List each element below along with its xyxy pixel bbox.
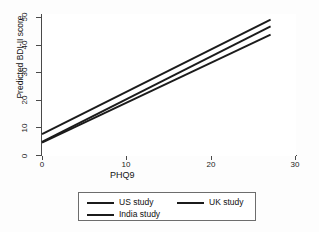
x-tick-label-20: 20 bbox=[201, 160, 221, 169]
x-tick-label-10: 10 bbox=[116, 160, 136, 169]
legend-line-swatch-icon bbox=[87, 202, 114, 204]
chart-legend: US study UK study India study bbox=[78, 192, 256, 221]
series-line-us-study bbox=[42, 20, 271, 134]
legend-line-swatch-icon bbox=[177, 202, 204, 204]
legend-label-uk-study: UK study bbox=[209, 198, 244, 207]
legend-line-swatch-icon bbox=[87, 214, 114, 216]
legend-label-india-study: India study bbox=[119, 210, 160, 219]
y-tick-label-0: 0 bbox=[21, 149, 29, 163]
plot-area bbox=[42, 14, 296, 156]
legend-item-india-study: India study bbox=[87, 209, 160, 220]
y-tick-label-30: 30 bbox=[21, 65, 29, 79]
x-tick-label-30: 30 bbox=[285, 160, 305, 169]
series-line-uk-study bbox=[42, 26, 271, 141]
legend-item-uk-study: UK study bbox=[177, 197, 244, 208]
y-tick-label-50: 50 bbox=[21, 10, 29, 24]
x-axis-title: PHQ9 bbox=[110, 170, 230, 180]
x-tick-label-0: 0 bbox=[32, 160, 52, 169]
series-lines bbox=[42, 14, 296, 156]
series-line-india-study bbox=[42, 35, 271, 143]
y-tick-label-20: 20 bbox=[21, 93, 29, 107]
chart-figure: Predicted BDI-II score 0 10 20 30 40 50 … bbox=[0, 0, 319, 232]
y-tick-label-10: 10 bbox=[21, 121, 29, 135]
legend-label-us-study: US study bbox=[119, 198, 154, 207]
y-tick-label-40: 40 bbox=[21, 38, 29, 52]
legend-item-us-study: US study bbox=[87, 197, 154, 208]
